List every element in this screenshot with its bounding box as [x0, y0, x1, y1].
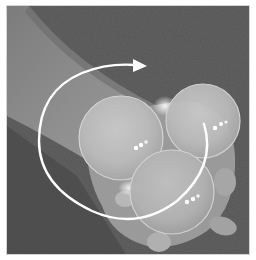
finger-1 [214, 168, 236, 196]
juggling-balls-photo [7, 6, 250, 255]
finger-3 [147, 232, 171, 252]
photo-frame [6, 5, 250, 255]
right-ball [166, 84, 240, 158]
bottom-ball [130, 150, 214, 234]
